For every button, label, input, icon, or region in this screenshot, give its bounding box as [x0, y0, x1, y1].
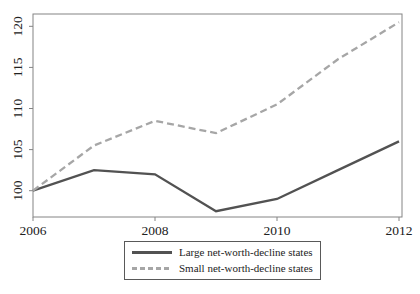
legend-label-large: Large net-worth-decline states — [179, 246, 313, 259]
legend-solid-line-sample — [132, 251, 172, 254]
x-tick-label: 2008 — [142, 223, 169, 238]
y-tick-label: 105 — [10, 139, 25, 160]
legend: Large net-worth-decline states Small net… — [124, 241, 321, 280]
legend-label-small: Small net-worth-decline states — [179, 262, 313, 275]
x-tick-label: 2012 — [386, 223, 413, 238]
y-tick-label: 115 — [10, 57, 25, 77]
legend-item-large: Large net-worth-decline states — [132, 246, 313, 259]
x-tick-label: 2006 — [20, 223, 47, 238]
legend-item-small: Small net-worth-decline states — [132, 262, 313, 275]
plot-frame — [33, 14, 402, 217]
series-line-large-decline — [33, 141, 399, 211]
y-tick-label: 120 — [10, 16, 25, 36]
y-tick-label: 100 — [10, 180, 25, 201]
x-tick-label: 2010 — [264, 223, 291, 238]
figure: 1001051101151202006200820102012 Large ne… — [0, 0, 420, 294]
series-line-small-decline — [33, 22, 399, 190]
legend-dashed-line-sample — [132, 267, 172, 270]
y-tick-label: 110 — [10, 98, 25, 118]
